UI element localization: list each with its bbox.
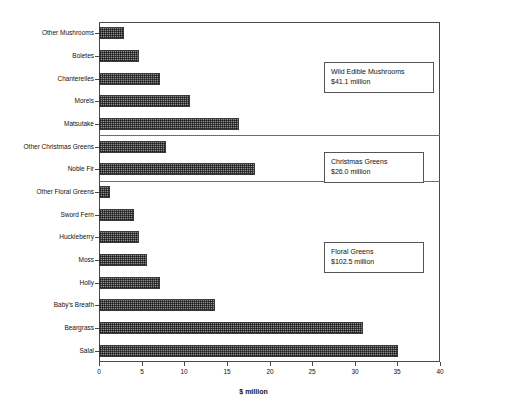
category-label-holly: Holly — [0, 279, 94, 287]
bar-other-christmas-greens — [99, 141, 166, 153]
bar-beargrass — [99, 322, 363, 334]
annotation-christmas-greens: Christmas Greens $26.0 million — [324, 152, 424, 183]
x-tick-label-5: 5 — [130, 368, 154, 376]
y-tick-salal — [95, 351, 99, 352]
category-label-boletes: Boletes — [0, 52, 94, 60]
annotation-0-title: Wild Edible Mushrooms — [331, 67, 427, 77]
x-tick-40 — [440, 362, 441, 366]
x-tick-label-0: 0 — [87, 368, 111, 376]
category-label-matsutake: Matsutake — [0, 120, 94, 128]
y-tick-other-mushrooms — [95, 33, 99, 34]
x-tick-label-25: 25 — [300, 368, 324, 376]
y-tick-holly — [95, 283, 99, 284]
annotation-wild-edible-mushrooms: Wild Edible Mushrooms $41.1 million — [324, 62, 434, 93]
x-tick-0 — [99, 362, 100, 366]
category-label-morels: Morels — [0, 97, 94, 105]
y-tick-huckleberry — [95, 237, 99, 238]
y-tick-matsutake — [95, 124, 99, 125]
annotation-floral-greens: Floral Greens $102.5 million — [324, 242, 424, 273]
category-label-chanterelles: Chanterelles — [0, 75, 94, 83]
group-separator-1 — [99, 135, 440, 136]
y-tick-other-floral-greens — [95, 192, 99, 193]
bar-salal — [99, 345, 398, 357]
x-tick-25 — [312, 362, 313, 366]
bar-boletes — [99, 50, 139, 62]
category-label-sword-fern: Sword Fern — [0, 211, 94, 219]
bar-chanterelles — [99, 73, 160, 85]
bar-holly — [99, 277, 160, 289]
y-tick-other-christmas-greens — [95, 147, 99, 148]
y-tick-boletes — [95, 56, 99, 57]
category-label-other-floral-greens: Other Floral Greens — [0, 188, 94, 196]
x-tick-30 — [355, 362, 356, 366]
x-tick-label-15: 15 — [215, 368, 239, 376]
y-tick-sword-fern — [95, 215, 99, 216]
x-tick-20 — [270, 362, 271, 366]
annotation-0-value: $41.1 million — [331, 77, 427, 87]
bar-matsutake — [99, 118, 239, 130]
y-tick-beargrass — [95, 328, 99, 329]
x-tick-5 — [142, 362, 143, 366]
bar-other-floral-greens — [99, 186, 110, 198]
y-tick-chanterelles — [95, 79, 99, 80]
bar-other-mushrooms — [99, 27, 124, 39]
category-label-salal: Salal — [0, 347, 94, 355]
category-label-huckleberry: Huckleberry — [0, 233, 94, 241]
bar-morels — [99, 95, 190, 107]
y-tick-moss — [95, 260, 99, 261]
category-label-other-christmas-greens: Other Christmas Greens — [0, 143, 94, 151]
bar-noble-fir — [99, 163, 255, 175]
bar-baby-s-breath — [99, 299, 215, 311]
bar-huckleberry — [99, 231, 139, 243]
x-tick-35 — [397, 362, 398, 366]
x-tick-10 — [184, 362, 185, 366]
bar-sword-fern — [99, 209, 134, 221]
category-label-beargrass: Beargrass — [0, 324, 94, 332]
annotation-1-title: Christmas Greens — [331, 157, 417, 167]
category-label-baby-s-breath: Baby's Breath — [0, 301, 94, 309]
y-tick-noble-fir — [95, 169, 99, 170]
x-tick-label-40: 40 — [428, 368, 452, 376]
category-label-noble-fir: Noble Fir — [0, 165, 94, 173]
x-axis-title: $ million — [0, 388, 507, 395]
y-tick-morels — [95, 101, 99, 102]
x-tick-15 — [227, 362, 228, 366]
bar-moss — [99, 254, 147, 266]
annotation-1-value: $26.0 million — [331, 167, 417, 177]
x-tick-label-35: 35 — [385, 368, 409, 376]
x-tick-label-10: 10 — [172, 368, 196, 376]
annotation-2-value: $102.5 million — [331, 257, 417, 267]
horizontal-bar-chart: Other MushroomsBoletesChanterellesMorels… — [0, 0, 507, 418]
category-label-other-mushrooms: Other Mushrooms — [0, 29, 94, 37]
category-label-moss: Moss — [0, 256, 94, 264]
x-tick-label-30: 30 — [343, 368, 367, 376]
x-tick-label-20: 20 — [258, 368, 282, 376]
y-tick-baby-s-breath — [95, 305, 99, 306]
annotation-2-title: Floral Greens — [331, 247, 417, 257]
